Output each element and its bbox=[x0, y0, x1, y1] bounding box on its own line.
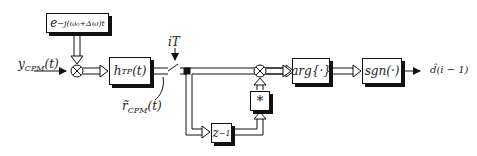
sampler-label: iT bbox=[168, 36, 180, 48]
input-y: y bbox=[18, 57, 25, 71]
input-label: yCPM(t) bbox=[18, 58, 59, 73]
input-arg: (t) bbox=[44, 57, 58, 71]
exp-sup: −j(ω₀+Δω)t bbox=[57, 19, 104, 28]
sampled-sub: CPM bbox=[128, 106, 148, 115]
lowpass-block: hTP(t) bbox=[109, 57, 151, 85]
sampled-arg: (t) bbox=[147, 99, 161, 113]
input-sub: CPM bbox=[25, 64, 45, 73]
sgn-block: sgn(·) bbox=[362, 58, 402, 84]
delay-block: z−1 bbox=[211, 123, 232, 143]
exp-base: e bbox=[50, 16, 57, 30]
conjugate-block: * bbox=[250, 91, 270, 111]
lowpass-arg: (t) bbox=[132, 64, 146, 78]
sampled-signal-label: r̃CPM(t) bbox=[122, 100, 162, 115]
delay-sup: −1 bbox=[219, 129, 231, 138]
output-label: d̂(i − 1) bbox=[430, 65, 469, 75]
arg-label: arg{·} bbox=[291, 64, 331, 78]
lowpass-h: h bbox=[114, 64, 122, 78]
conjugate-symbol: * bbox=[257, 93, 264, 109]
lowpass-sub: TP bbox=[121, 67, 132, 76]
sgn-label: sgn(·) bbox=[365, 64, 400, 78]
arg-block: arg{·} bbox=[292, 58, 330, 84]
exp-block: e−j(ω₀+Δω)t bbox=[46, 13, 109, 33]
